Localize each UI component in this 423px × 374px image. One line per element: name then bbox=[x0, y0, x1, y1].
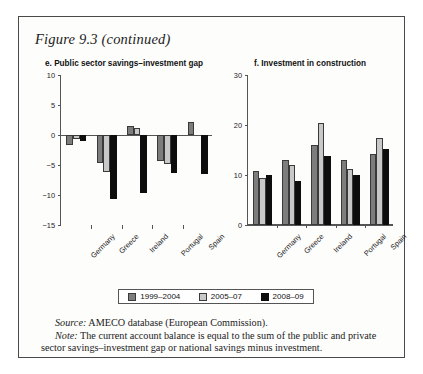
legend-swatch-icon bbox=[199, 293, 207, 301]
bar bbox=[103, 135, 110, 172]
bar bbox=[188, 122, 195, 135]
x-axis-category-label: Spain bbox=[388, 232, 408, 252]
y-axis-tick-label: −10 bbox=[27, 191, 55, 200]
x-axis-group-tick bbox=[336, 224, 337, 228]
bar bbox=[110, 135, 117, 199]
bar bbox=[324, 156, 330, 225]
figure-title: Figure 9.3 (continued) bbox=[35, 31, 171, 48]
bar bbox=[97, 135, 104, 163]
y-axis-tick bbox=[58, 195, 61, 196]
bar bbox=[164, 135, 171, 164]
y-axis-tick bbox=[58, 225, 61, 226]
bar bbox=[73, 135, 80, 139]
x-axis-category-label: Greece bbox=[302, 232, 326, 256]
x-axis-group-tick bbox=[152, 225, 153, 229]
chart-panel-investment-in-construction: f. Investment in construction 3020100Ger… bbox=[219, 59, 401, 274]
bar bbox=[80, 135, 87, 141]
chart-title-f: f. Investment in construction bbox=[219, 59, 401, 68]
y-axis-tick-label: 10 bbox=[214, 171, 242, 180]
y-axis-tick-label: 30 bbox=[214, 71, 242, 80]
note-line: Note: The current account balance is equ… bbox=[41, 330, 389, 355]
x-axis-group-tick bbox=[306, 224, 307, 228]
figure-footnotes: Source: AMECO database (European Commiss… bbox=[41, 317, 389, 355]
bar bbox=[157, 135, 164, 161]
legend-item: 2008–09 bbox=[261, 292, 304, 301]
source-line: Source: AMECO database (European Commiss… bbox=[41, 317, 389, 330]
x-axis-group-tick bbox=[277, 224, 278, 228]
x-axis-category-label: Ireland bbox=[147, 232, 169, 254]
x-axis-group-tick bbox=[91, 225, 92, 229]
bar bbox=[383, 149, 389, 226]
y-axis-tick bbox=[58, 105, 61, 106]
y-axis-tick-label: 5 bbox=[27, 101, 55, 110]
bar bbox=[171, 135, 178, 173]
y-axis-tick-label: 10 bbox=[27, 71, 55, 80]
x-axis-category-label: Ireland bbox=[331, 232, 353, 254]
bar bbox=[127, 126, 134, 135]
zero-baseline bbox=[248, 225, 393, 226]
x-axis-category-label: Germany bbox=[89, 232, 117, 260]
x-axis-group-tick bbox=[122, 225, 123, 229]
chart-title-e: e. Public sector savings–investment gap bbox=[29, 59, 219, 68]
bar bbox=[134, 128, 141, 135]
y-axis-tick bbox=[245, 75, 248, 76]
source-label: Source: bbox=[55, 317, 86, 328]
legend-label: 1999–2004 bbox=[140, 292, 180, 301]
plot-area-f: 3020100GermanyGreeceIrelandPortugalSpain bbox=[247, 75, 393, 225]
legend-swatch-icon bbox=[261, 293, 269, 301]
x-axis-category-label: Portugal bbox=[362, 232, 388, 258]
y-axis-tick bbox=[245, 125, 248, 126]
chart-legend: 1999–2004 2005–07 2008–09 bbox=[118, 289, 314, 304]
y-axis-tick-label: 20 bbox=[214, 121, 242, 130]
x-axis-category-label: Greece bbox=[117, 232, 141, 256]
legend-item: 2005–07 bbox=[199, 292, 242, 301]
note-text: The current account balance is equal to … bbox=[41, 330, 376, 354]
y-axis-tick bbox=[58, 75, 61, 76]
y-axis-tick-label: −5 bbox=[27, 161, 55, 170]
x-axis-category-label: Germany bbox=[275, 232, 303, 260]
bar bbox=[140, 135, 147, 193]
plot-area-e: 1050−5−10−15GermanyGreeceIrelandPortugal… bbox=[60, 75, 212, 225]
x-axis-category-label: Portugal bbox=[179, 232, 205, 258]
bar bbox=[353, 175, 359, 226]
y-axis-tick-label: 0 bbox=[27, 131, 55, 140]
source-text: AMECO database (European Commission). bbox=[86, 317, 267, 328]
legend-swatch-icon bbox=[128, 293, 136, 301]
bar bbox=[66, 135, 73, 145]
y-axis-tick-label: 0 bbox=[214, 221, 242, 230]
bar bbox=[201, 135, 208, 174]
note-label: Note: bbox=[55, 330, 78, 341]
legend-item: 1999–2004 bbox=[128, 292, 180, 301]
legend-label: 2005–07 bbox=[211, 292, 242, 301]
x-axis-group-tick bbox=[365, 224, 366, 228]
bar bbox=[266, 175, 272, 226]
figure-frame: Figure 9.3 (continued) e. Public sector … bbox=[18, 16, 405, 358]
chart-panel-public-sector-savings-investment-gap: e. Public sector savings–investment gap … bbox=[29, 59, 219, 274]
y-axis-tick-label: −15 bbox=[27, 221, 55, 230]
y-axis-tick bbox=[245, 175, 248, 176]
bar bbox=[295, 181, 301, 226]
legend-label: 2008–09 bbox=[273, 292, 304, 301]
x-axis-group-tick bbox=[183, 225, 184, 229]
y-axis-tick bbox=[58, 165, 61, 166]
